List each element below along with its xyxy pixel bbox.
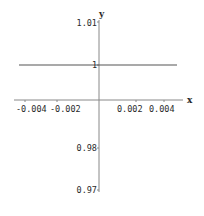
x-tick-label: -0.002 <box>50 104 81 114</box>
x-tick-label: 0.002 <box>117 104 143 114</box>
x-axis-label: x <box>187 95 192 105</box>
y-tick-label: 0.97 <box>77 185 97 195</box>
y-tick-label: 0.98 <box>77 143 97 153</box>
x-tick-label: 0.004 <box>149 104 175 114</box>
y-tick-label: 1 <box>92 60 97 70</box>
y-tick-label: 1.01 <box>77 18 97 28</box>
x-tick-label: -0.004 <box>16 104 47 114</box>
y-axis-label: y <box>99 9 104 19</box>
